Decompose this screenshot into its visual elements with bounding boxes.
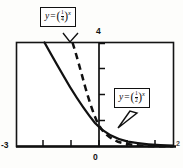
- equation-half: y=(12)x: [119, 91, 145, 104]
- equation-half-exponent: x: [142, 90, 145, 97]
- x-axis-min-label: -3: [1, 140, 9, 150]
- plot-canvas: [0, 0, 183, 168]
- origin-label: 0: [93, 152, 98, 162]
- equation-quarter: y=(14)x: [45, 10, 71, 23]
- callout-quarter: y=(14)x: [40, 7, 76, 27]
- callout-quarter-tail: [63, 33, 78, 42]
- x-axis-max-label: 2: [176, 140, 180, 147]
- equation-quarter-equals: =: [49, 11, 56, 21]
- callout-half: y=(12)x: [114, 88, 150, 108]
- y-axis-max-label: 4: [96, 26, 101, 36]
- equation-quarter-exponent: x: [68, 9, 71, 16]
- equation-half-equals: =: [123, 92, 130, 102]
- exponential-graph-figure: y=(14)x y=(12)x 4 -3 0 2: [0, 0, 183, 168]
